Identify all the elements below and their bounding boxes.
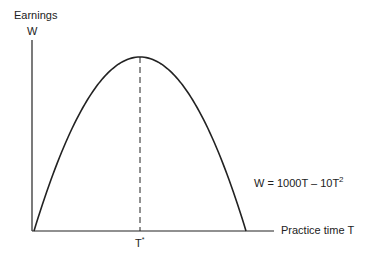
equation-text: W = 1000T – 10T xyxy=(254,177,339,189)
y-axis-title: Earnings xyxy=(14,9,57,21)
equation-exponent: 2 xyxy=(339,175,343,184)
y-axis-variable: W xyxy=(27,25,37,37)
peak-marker-base: T xyxy=(135,237,142,249)
earnings-curve xyxy=(34,57,246,231)
earnings-diagram xyxy=(0,0,368,260)
peak-marker-sup: * xyxy=(142,236,145,243)
peak-marker-label: T* xyxy=(135,236,144,249)
equation-label: W = 1000T – 10T2 xyxy=(254,175,344,189)
x-axis-label: Practice time T xyxy=(281,224,354,236)
